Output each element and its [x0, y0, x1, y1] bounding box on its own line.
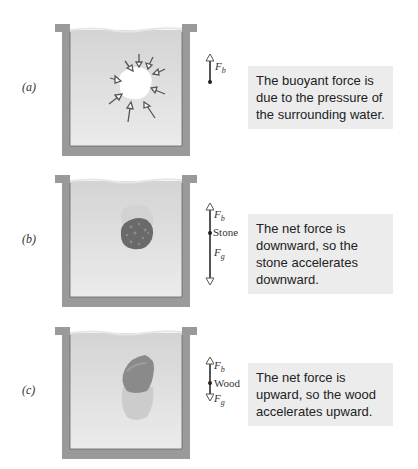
water-tank	[55, 24, 196, 156]
up-arrow-icon	[200, 52, 214, 86]
force-diagram-stone	[200, 201, 214, 291]
gravity-force-label: Fg	[214, 392, 225, 407]
gravity-force-label: Fg	[214, 246, 225, 261]
buoyant-force-label: Fb	[215, 60, 226, 75]
wood-label: Wood	[214, 377, 240, 389]
force-diagram-wood	[200, 355, 214, 407]
wood-object	[122, 355, 154, 393]
buoyant-force-vector	[200, 52, 214, 90]
water-tank	[55, 327, 196, 459]
panel-label: (c)	[22, 383, 35, 398]
caption-b: The net force is downward, so the stone …	[248, 214, 393, 294]
panel-a: (a)	[0, 0, 418, 160]
up-down-arrow-icon	[200, 355, 214, 403]
stone-label: Stone	[213, 226, 238, 238]
caption-a: The buoyant force is due to the pressure…	[248, 66, 393, 129]
stone-object	[121, 218, 153, 249]
water-tank	[55, 175, 196, 307]
buoyant-force-label: Fb	[214, 208, 225, 223]
caption-c: The net force is upward, so the wood acc…	[248, 363, 393, 426]
buoyant-force-label: Fb	[214, 359, 225, 374]
tank-illustration	[55, 327, 197, 459]
up-down-arrow-icon	[200, 201, 214, 287]
tank-illustration	[55, 175, 197, 307]
displaced-water-blob	[119, 67, 152, 99]
panel-label: (a)	[22, 80, 36, 95]
panel-label: (b)	[22, 232, 36, 247]
tank-illustration	[55, 24, 197, 156]
